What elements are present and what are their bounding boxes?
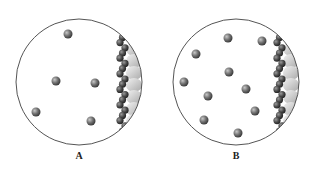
surface-wall (116, 18, 142, 152)
figure-canvas (0, 0, 311, 170)
gas-particle (192, 50, 201, 59)
gas-particle (91, 79, 100, 88)
gas-particle (258, 37, 267, 46)
gas-particle (32, 108, 41, 117)
panel-label-a: A (75, 150, 82, 161)
gas-particle (180, 78, 189, 87)
surface-wall (273, 18, 299, 152)
gas-particle (204, 92, 213, 101)
gas-particle (87, 117, 96, 126)
gas-particle (224, 34, 233, 43)
gas-particle (64, 30, 73, 39)
gas-particle (242, 85, 251, 94)
gas-particle (200, 116, 209, 125)
gas-particle (234, 129, 243, 138)
panel-label-b: B (233, 150, 240, 161)
panel-a (16, 18, 142, 152)
gas-particle (52, 77, 61, 86)
gas-particle (225, 68, 234, 77)
gas-particle (251, 107, 260, 116)
panel-b (173, 18, 299, 152)
